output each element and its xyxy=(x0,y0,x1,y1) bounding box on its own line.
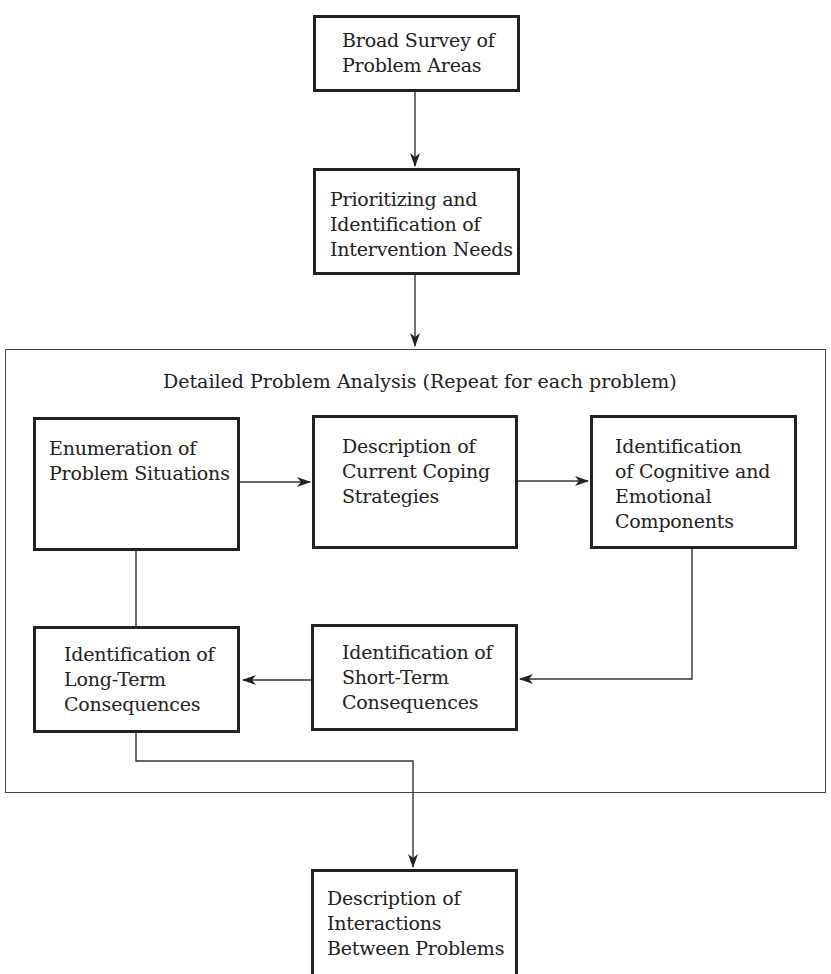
group-title: Detailed Problem Analysis (Repeat for ea… xyxy=(163,370,677,392)
node-label: Enumeration of Problem Situations xyxy=(49,436,237,486)
node-label: Identification of Cognitive and Emotiona… xyxy=(615,434,794,534)
node-interactions: Description of Interactions Between Prob… xyxy=(311,869,518,974)
node-broad-survey: Broad Survey of Problem Areas xyxy=(313,15,520,92)
node-coping: Description of Current Coping Strategies xyxy=(312,415,518,549)
node-label: Description of Current Coping Strategies xyxy=(342,434,515,509)
node-label: Identification of Short-Term Consequence… xyxy=(342,640,515,715)
node-label: Identification of Long-Term Consequences xyxy=(64,642,237,717)
node-label: Broad Survey of Problem Areas xyxy=(342,28,517,78)
node-enumeration: Enumeration of Problem Situations xyxy=(33,417,240,551)
node-long-term: Identification of Long-Term Consequences xyxy=(33,626,240,733)
node-prioritizing: Prioritizing and Identification of Inter… xyxy=(313,168,520,275)
node-short-term: Identification of Short-Term Consequence… xyxy=(311,624,518,731)
node-label: Prioritizing and Identification of Inter… xyxy=(330,187,517,262)
node-label: Description of Interactions Between Prob… xyxy=(327,886,515,961)
node-cognitive: Identification of Cognitive and Emotiona… xyxy=(590,415,797,549)
